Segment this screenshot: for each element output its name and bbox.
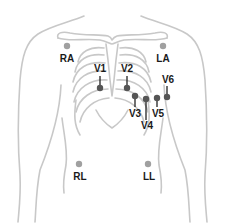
electrode-dot-rl — [76, 161, 82, 167]
electrode-dot-v3 — [132, 93, 138, 99]
electrode-label-la: LA — [156, 54, 169, 64]
electrode-label-v3: V3 — [129, 109, 141, 119]
electrode-label-rl: RL — [73, 172, 86, 182]
electrode-layer — [0, 0, 225, 224]
ecg-diagram: RA LA RL LL V1 V2 V3 V4 V5 V6 — [0, 0, 225, 224]
electrode-dot-v1 — [97, 85, 103, 91]
electrode-dot-v5 — [154, 95, 160, 101]
electrode-label-v4: V4 — [141, 121, 153, 131]
electrode-label-ll: LL — [143, 172, 155, 182]
electrode-dot-v6 — [164, 94, 170, 100]
electrode-label-v1: V1 — [94, 64, 106, 74]
electrode-dot-ll — [145, 161, 151, 167]
electrode-label-ra: RA — [60, 54, 74, 64]
electrode-label-v2: V2 — [121, 64, 133, 74]
electrode-label-v5: V5 — [152, 109, 164, 119]
electrode-dot-la — [160, 43, 166, 49]
electrode-dot-v4 — [143, 96, 149, 102]
electrode-label-v6: V6 — [162, 75, 174, 85]
electrode-dot-ra — [64, 43, 70, 49]
electrode-dot-v2 — [124, 85, 130, 91]
